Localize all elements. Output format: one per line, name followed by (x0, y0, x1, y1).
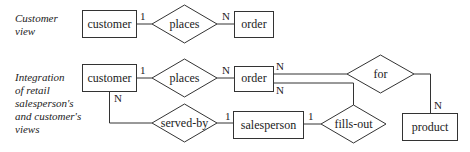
cardinality-label: N (276, 84, 284, 96)
relationship-places-bottom-label: places (170, 71, 200, 85)
cardinality-label: N (114, 92, 122, 104)
cardinality-label: 1 (225, 110, 231, 122)
entity-order-bottom-label: order (241, 71, 266, 85)
cardinality-label: 1 (308, 110, 314, 122)
cardinality-label: N (222, 64, 230, 76)
entity-product-label: product (412, 120, 449, 134)
entity-customer-top-label: customer (88, 17, 132, 31)
cardinality-label: N (434, 99, 442, 111)
relationship-fills-out-label: fills-out (335, 117, 374, 131)
cardinality-label: N (276, 60, 284, 72)
cardinality-label: 1 (140, 64, 146, 76)
cardinality-label: 1 (140, 10, 146, 22)
er-diagram: customer places order customer places or… (0, 0, 470, 152)
relationship-served-by-label: served-by (161, 116, 208, 130)
entity-customer-bottom-label: customer (88, 71, 132, 85)
entity-salesperson-label: salesperson (241, 118, 296, 132)
cardinality-label: N (222, 10, 230, 22)
entity-order-top-label: order (241, 17, 266, 31)
relationship-for-label: for (374, 67, 388, 81)
relationship-places-top-label: places (170, 17, 200, 31)
